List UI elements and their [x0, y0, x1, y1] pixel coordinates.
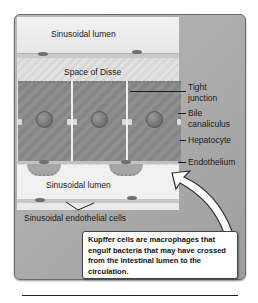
space-of-disse-label: Space of Disse [64, 67, 121, 77]
bile-canaliculus [18, 119, 22, 125]
nucleus [91, 111, 108, 128]
tight-junction-arrow [130, 91, 186, 92]
endothelial-cells-pointer-icon [60, 200, 100, 214]
bile-canaliculus [73, 119, 77, 125]
hepatocyte-cell [128, 81, 181, 163]
kupffer-callout: Kupffer cells are macrophages that engul… [82, 231, 238, 279]
bile-label-1: Bile [188, 108, 202, 118]
bile-arrow [178, 113, 186, 114]
bile-label-2: canaliculus [188, 119, 230, 129]
bottom-lumen-label: Sinusoidal lumen [46, 180, 111, 190]
endothelial-nucleus [132, 50, 142, 54]
bile-canaliculus [128, 119, 132, 125]
nucleus [146, 111, 163, 128]
endothelium-arrow [178, 162, 186, 163]
hepatocyte-cell [18, 81, 71, 163]
nucleus [36, 111, 53, 128]
endothelial-nucleus [127, 196, 137, 200]
bile-canaliculus [177, 119, 181, 125]
hepatocyte-arrow [180, 140, 186, 141]
endothelial-nucleus [35, 198, 45, 202]
hepatocyte-label: Hepatocyte [188, 135, 231, 145]
endothelial-cells-label: Sinusoidal endothelial cells [24, 213, 126, 223]
top-lumen-label: Sinusoidal lumen [51, 29, 116, 39]
endothelial-nucleus [39, 160, 49, 164]
horizontal-rule [22, 295, 238, 296]
tight-junction-label-1: Tight [188, 82, 207, 92]
endothelial-nucleus [38, 52, 48, 56]
tight-junction-label-2: junction [188, 93, 217, 103]
callout-arrow-icon [168, 165, 248, 237]
hepatocyte-cell [73, 81, 126, 163]
endothelial-nucleus [121, 160, 131, 164]
hepatocyte-row [18, 81, 179, 163]
